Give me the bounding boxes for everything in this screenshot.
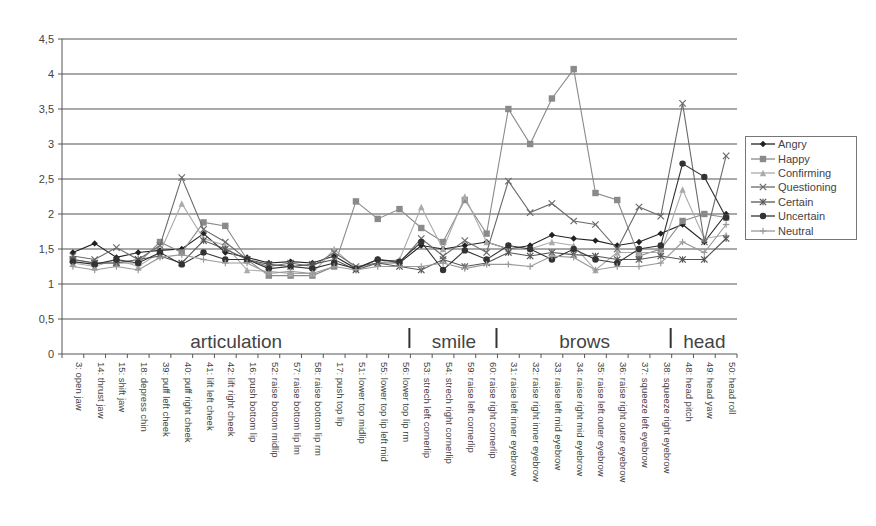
marker-diamond — [570, 235, 576, 241]
marker-triangle — [179, 200, 185, 206]
line-chart: 00,511,522,533,544,5 3: open jaw14: thru… — [0, 0, 876, 526]
marker-circle — [113, 256, 119, 262]
legend-item-neutral: Neutral — [746, 223, 856, 237]
x-tick-label: 56: lower top lip rm — [401, 362, 412, 442]
y-tick-label: 2 — [48, 208, 54, 220]
y-axis: 00,511,522,533,544,5 — [39, 33, 62, 360]
marker-square — [418, 225, 424, 231]
marker-circle — [418, 239, 424, 245]
x-tick-label: 51: lower top midlip — [357, 362, 368, 444]
marker-square — [679, 218, 685, 224]
y-tick-label: 3 — [48, 138, 54, 150]
legend-label: Neutral — [778, 225, 813, 237]
marker-square — [483, 230, 489, 236]
series-questioning — [70, 100, 730, 270]
marker-circle — [658, 242, 664, 248]
legend-label: Confirming — [778, 167, 831, 179]
marker-triangle — [462, 193, 468, 199]
marker-circle — [375, 256, 381, 262]
marker-diamond — [760, 141, 766, 147]
marker-circle — [701, 174, 707, 180]
x-tick-label: 58: raise bottom lip rm — [313, 362, 324, 456]
x-tick-label: 57: raise bottom lip lm — [292, 362, 303, 455]
x-tick-label: 52: raise bottom midlip — [270, 362, 281, 458]
x-tick-label: 16: push bottom lip — [248, 362, 259, 442]
marker-circle — [135, 260, 141, 266]
x-tick-label: 42: lift right cheek — [226, 362, 237, 437]
x-tick-label: 49: head yaw — [705, 362, 716, 419]
x-tick-label: 34: raise right mid eyebrow — [575, 362, 586, 476]
series-line — [73, 69, 726, 276]
group-label-brows: brows — [559, 331, 610, 352]
marker-square — [701, 211, 707, 217]
marker-circle — [200, 249, 206, 255]
marker-diamond — [91, 240, 97, 246]
y-tick-label: 0,5 — [39, 313, 54, 325]
marker-circle — [91, 261, 97, 267]
group-label-head: head — [683, 331, 725, 352]
legend-swatch-icon — [750, 226, 776, 236]
x-tick-label: 48: head pitch — [684, 362, 695, 422]
marker-triangle — [418, 204, 424, 210]
x-tick-label: 15: shift jaw — [117, 362, 128, 412]
x-tick-label: 40: puff right cheek — [183, 362, 194, 443]
y-tick-label: 4,5 — [39, 33, 54, 45]
legend-item-angry: Angry — [746, 137, 856, 151]
y-tick-label: 4 — [48, 68, 54, 80]
marker-square — [570, 66, 576, 72]
marker-square — [592, 190, 598, 196]
marker-square — [549, 95, 555, 101]
x-tick-label: 17: push top lip — [335, 362, 346, 426]
gridlines — [62, 39, 737, 319]
legend-swatch-icon — [750, 168, 776, 178]
x-tick-label: 53: strech left cornerlip — [422, 362, 433, 458]
marker-square — [375, 216, 381, 222]
marker-circle — [723, 214, 729, 220]
legend: AngryHappyConfirmingQuestioningCertainUn… — [745, 136, 857, 240]
x-tick-label: 38: squeeze right eyebrow — [662, 362, 673, 474]
marker-triangle — [679, 186, 685, 192]
legend-item-certain: Certain — [746, 195, 856, 209]
legend-label: Happy — [778, 153, 810, 165]
x-tick-label: 35: raise left outer eyebrow — [596, 362, 607, 477]
marker-diamond — [636, 239, 642, 245]
x-tick-label: 60: raise right cornerlip — [488, 362, 499, 459]
legend-swatch-icon — [750, 211, 776, 221]
legend-item-questioning: Questioning — [746, 180, 856, 194]
marker-diamond — [549, 232, 555, 238]
legend-swatch-icon — [750, 197, 776, 207]
marker-diamond — [135, 249, 141, 255]
legend-label: Certain — [778, 196, 813, 208]
plot-series — [70, 66, 730, 279]
x-axis: 3: open jaw14: thrust jaw15: shift jaw18… — [62, 354, 738, 483]
marker-circle — [440, 267, 446, 273]
marker-circle — [760, 213, 766, 219]
legend-swatch-icon — [750, 139, 776, 149]
marker-circle — [462, 247, 468, 253]
y-tick-label: 3,5 — [39, 103, 54, 115]
x-tick-label: 55: lower top lip left mid — [379, 362, 390, 462]
marker-square — [527, 141, 533, 147]
x-tick-label: 14: thrust jaw — [96, 362, 107, 419]
marker-square — [222, 223, 228, 229]
marker-square — [505, 106, 511, 112]
series-happy — [70, 66, 730, 279]
marker-circle — [505, 242, 511, 248]
x-tick-label: 59: raise left cornerlip — [466, 362, 477, 453]
x-tick-label: 54: strech right cornerlip — [444, 362, 455, 464]
x-tick-label: 18: depress chin — [139, 362, 150, 432]
marker-square — [760, 155, 766, 161]
y-tick-label: 1 — [48, 278, 54, 290]
y-tick-label: 1,5 — [39, 243, 54, 255]
group-label-smile: smile — [432, 331, 476, 352]
marker-square — [396, 206, 402, 212]
marker-circle — [592, 256, 598, 262]
category-group-labels: articulationsmilebrowshead — [190, 328, 725, 352]
marker-circle — [179, 261, 185, 267]
legend-label: Uncertain — [778, 210, 825, 222]
x-tick-label: 41: lift left cheek — [205, 362, 216, 431]
marker-square — [353, 198, 359, 204]
legend-item-uncertain: Uncertain — [746, 209, 856, 223]
marker-circle — [570, 246, 576, 252]
legend-label: Angry — [778, 138, 807, 150]
